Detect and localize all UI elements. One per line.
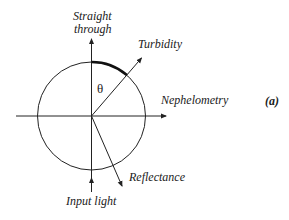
label-through: through	[74, 22, 112, 36]
theta-arc	[92, 62, 127, 75]
reflectance-arrow	[92, 116, 123, 186]
label-turbidity: Turbidity	[138, 37, 183, 51]
label-straight: Straight	[73, 9, 112, 23]
label-input-light: Input light	[65, 194, 117, 208]
theta-symbol: θ	[97, 81, 103, 96]
label-nephelometry: Nephelometry	[160, 93, 229, 107]
light-scattering-diagram: θ Straight through Turbidity Nephelometr…	[0, 0, 289, 220]
label-reflectance: Reflectance	[128, 170, 186, 184]
panel-label: (a)	[265, 94, 279, 108]
